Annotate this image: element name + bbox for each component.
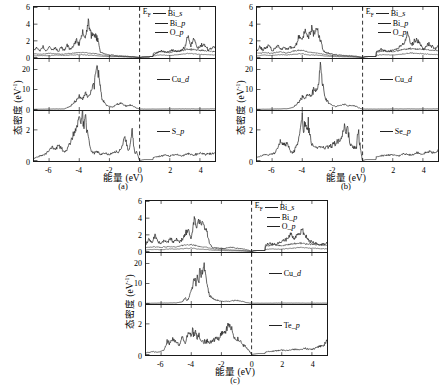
y-tick-label: 20	[231, 65, 253, 74]
plot-area	[146, 201, 327, 252]
legend-label: Bi_p	[393, 19, 409, 29]
y-tick-label: 0	[8, 106, 30, 115]
x-tick-label: 4	[412, 166, 436, 175]
plot-stack-c: 0246EFBi_sBi_pO_p01020Cu_d02Te_p	[145, 200, 328, 356]
y-tick-label: 6	[120, 197, 142, 206]
subplot-bottom: 02Te_p	[145, 304, 328, 356]
plot-area	[34, 59, 215, 110]
y-tick-label: 2	[8, 126, 30, 135]
x-tick-label: -6	[36, 166, 60, 175]
plot-area	[146, 305, 327, 355]
x-tick-label: -6	[148, 360, 172, 369]
subplot-middle: 01020Cu_d	[256, 58, 439, 110]
y-tick-label: 2	[231, 126, 253, 135]
x-tick-label: -2	[97, 166, 121, 175]
legend-line-swatch	[155, 23, 168, 24]
subplot-top: 0246EFBi_sBi_pO_p	[33, 6, 216, 58]
legend-line-swatch	[269, 273, 282, 274]
legend-item-o-p: O_p	[143, 28, 186, 38]
dos-curve-cu-d	[257, 62, 438, 109]
legend-item-bi-s: EFBi_s	[366, 9, 409, 19]
y-tick-label: 2	[120, 231, 142, 240]
legend-line-swatch	[380, 131, 393, 132]
dos-curve-o-p	[34, 53, 215, 57]
x-tick-label: 0	[351, 166, 375, 175]
x-tick-label: -2	[209, 360, 233, 369]
dos-curve-bi-s	[34, 19, 215, 58]
panel-b: 态密度 (eV-1) 能量 (eV) (b) 0246EFBi_sBi_pO_p…	[223, 0, 446, 194]
legend-label: Te_p	[284, 321, 300, 331]
legend-line-swatch	[153, 13, 166, 14]
legend: Cu_d	[380, 75, 412, 85]
legend: EFBi_sBi_pO_p	[366, 9, 409, 38]
legend-label: Bi_s	[168, 9, 183, 19]
legend-line-swatch	[269, 325, 282, 326]
legend: Cu_d	[157, 75, 189, 85]
legend-label: O_p	[170, 28, 184, 38]
subplot-bottom: 02S_p	[33, 110, 216, 162]
x-tick-label: 0	[128, 166, 152, 175]
legend-line-swatch	[157, 79, 170, 80]
legend-label: O_p	[393, 28, 407, 38]
legend-label: Cu_d	[395, 75, 412, 85]
plot-stack-a: 0246EFBi_sBi_pO_p01020Cu_d02S_p	[33, 6, 216, 162]
legend-line-swatch	[267, 226, 280, 227]
y-tick-label: 0	[231, 106, 253, 115]
fermi-level-label: EF	[255, 201, 263, 214]
legend-label: O_p	[282, 222, 296, 232]
legend: EFBi_sBi_pO_p	[143, 9, 186, 38]
legend-item-s-p: S_p	[157, 127, 184, 137]
x-tick-label: 4	[301, 360, 325, 369]
x-tick-label: 2	[158, 166, 182, 175]
y-tick-label: 0	[8, 158, 30, 167]
dos-curve-cu-d	[34, 65, 215, 109]
x-tick-label: -4	[179, 360, 203, 369]
plot-area	[257, 7, 438, 58]
y-tick-label: 4	[231, 20, 253, 29]
y-tick-label: 0	[8, 54, 30, 63]
panel-caption-c: (c)	[185, 375, 285, 385]
subplot-top: 0246EFBi_sBi_pO_p	[145, 200, 328, 252]
y-axis-label-close: )	[13, 80, 23, 83]
dos-curve-bi-p	[146, 242, 327, 251]
legend: Se_p	[380, 127, 411, 137]
panel-caption-a: (a)	[73, 181, 173, 191]
y-tick-label: 0	[120, 300, 142, 309]
legend-label: Bi_p	[282, 213, 298, 223]
legend-item-o-p: O_p	[255, 222, 298, 232]
subplot-middle: 01020Cu_d	[145, 252, 328, 304]
legend-item-bi-s: EFBi_s	[255, 203, 298, 213]
y-axis-label-close: )	[236, 80, 246, 83]
legend: EFBi_sBi_pO_p	[255, 203, 298, 232]
legend-label: Se_p	[395, 127, 411, 137]
dos-curve-s-p	[34, 111, 215, 161]
legend-label: Cu_d	[172, 75, 189, 85]
legend: S_p	[157, 127, 184, 137]
legend-label: Bi_s	[280, 203, 295, 213]
y-tick-label: 0	[120, 352, 142, 361]
y-tick-label: 0	[120, 248, 142, 257]
fermi-level-label: EF	[366, 7, 374, 20]
x-tick-label: -4	[290, 166, 314, 175]
x-tick-label: -6	[259, 166, 283, 175]
legend-item-cu-d: Cu_d	[269, 269, 301, 279]
y-tick-label: 10	[120, 279, 142, 288]
legend-line-swatch	[267, 217, 280, 218]
y-tick-label: 20	[120, 259, 142, 268]
legend-line-swatch	[380, 79, 393, 80]
y-tick-label: 20	[8, 65, 30, 74]
panel-caption-b: (b)	[296, 181, 396, 191]
legend-item-cu-d: Cu_d	[157, 75, 189, 85]
plot-area	[257, 111, 438, 161]
legend-line-swatch	[378, 23, 391, 24]
plot-area	[34, 7, 215, 58]
y-tick-label: 4	[120, 214, 142, 223]
legend-line-swatch	[376, 13, 389, 14]
subplot-bottom: 02Se_p	[256, 110, 439, 162]
y-tick-label: 0	[231, 54, 253, 63]
dos-curve-se-p	[257, 113, 438, 160]
y-tick-label: 4	[8, 20, 30, 29]
legend-item-se-p: Se_p	[380, 127, 411, 137]
y-tick-label: 0	[231, 158, 253, 167]
fermi-level-label: EF	[143, 7, 151, 20]
